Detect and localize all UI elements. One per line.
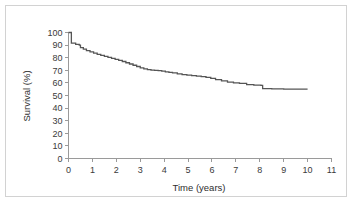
x-tick-label: 3 xyxy=(138,165,143,175)
y-tick-label: 80 xyxy=(52,53,62,63)
x-axis-title: Time (years) xyxy=(173,182,226,193)
y-tick-label: 100 xyxy=(47,28,62,38)
x-tick-label: 4 xyxy=(162,165,167,175)
y-tick-label: 50 xyxy=(52,91,62,101)
x-tick-label: 5 xyxy=(186,165,191,175)
y-axis-title: Survival (%) xyxy=(21,70,32,121)
y-tick-label: 70 xyxy=(52,66,62,76)
y-tick-label: 90 xyxy=(52,40,62,50)
y-tick-label: 20 xyxy=(52,129,62,139)
y-axis-ticks xyxy=(65,33,69,159)
x-tick-label: 8 xyxy=(257,165,262,175)
x-tick-label: 9 xyxy=(281,165,286,175)
x-axis-ticks xyxy=(69,159,332,163)
x-axis-tick-labels: 01234567891011 xyxy=(66,165,336,175)
survival-chart: 0102030405060708090100 01234567891011 Su… xyxy=(0,0,358,215)
x-tick-label: 7 xyxy=(233,165,238,175)
x-tick-label: 11 xyxy=(327,165,336,175)
x-tick-label: 0 xyxy=(66,165,71,175)
x-tick-label: 1 xyxy=(90,165,95,175)
x-tick-label: 2 xyxy=(114,165,119,175)
y-axis-tick-labels: 0102030405060708090100 xyxy=(47,28,62,164)
y-tick-label: 30 xyxy=(52,116,62,126)
figure-root: 0102030405060708090100 01234567891011 Su… xyxy=(0,0,358,215)
y-tick-label: 60 xyxy=(52,78,62,88)
survival-curve-line xyxy=(69,33,308,90)
x-tick-label: 10 xyxy=(303,165,313,175)
x-tick-label: 6 xyxy=(209,165,214,175)
y-tick-label: 0 xyxy=(57,154,62,164)
y-tick-label: 40 xyxy=(52,103,62,113)
y-tick-label: 10 xyxy=(52,141,62,151)
